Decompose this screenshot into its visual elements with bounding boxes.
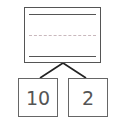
part-box-left: 10 xyxy=(18,78,58,117)
part-box-right: 2 xyxy=(68,78,108,117)
writing-line-midline xyxy=(29,35,96,36)
whole-box[interactable] xyxy=(24,7,101,63)
part-value-left: 10 xyxy=(26,87,50,109)
writing-line-bottom xyxy=(29,56,96,57)
writing-line-top xyxy=(29,14,96,15)
part-value-right: 2 xyxy=(82,87,94,109)
